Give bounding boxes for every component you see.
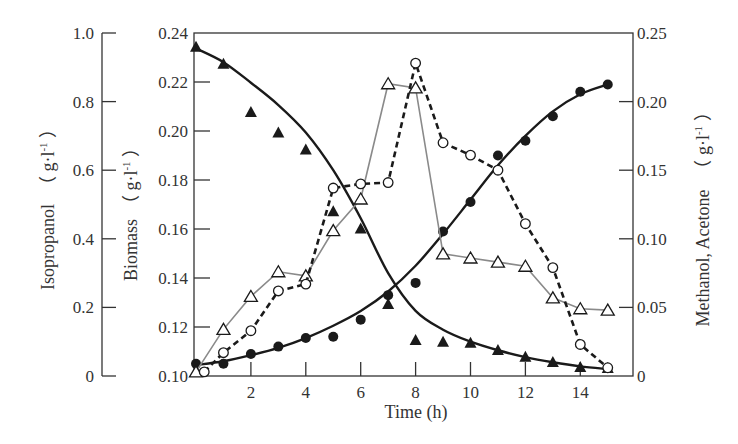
methanol-acetone-axis-title: Methanol, Acetone（ g·l-1 ）: [692, 103, 713, 326]
filled-triangle-marker: [300, 144, 312, 155]
open-triangle-marker: [382, 78, 395, 89]
time-tick-label: 14: [572, 383, 590, 402]
open-circle-marker: [438, 138, 448, 148]
series-acetone: [199, 58, 612, 376]
open-circle-marker: [521, 219, 531, 229]
right-tick-label: 0.10: [637, 230, 667, 249]
isopropanol-tick-label: 0.8: [73, 93, 94, 112]
filled-circle-marker: [328, 332, 338, 342]
acetone-line: [204, 63, 608, 372]
filled-circle-marker: [575, 87, 585, 97]
isopropanol-axis-title: Isopropanol（ g·l-1 ）: [37, 120, 58, 290]
filled-triangle-marker: [410, 334, 422, 345]
open-circle-marker: [246, 326, 256, 336]
chart-canvas: 00.20.40.60.81.0 0.100.120.140.160.180.2…: [0, 0, 738, 444]
filled-triangle-marker: [437, 336, 449, 347]
open-triangle-marker: [437, 248, 450, 259]
filled-circle-marker: [218, 359, 228, 369]
open-circle-marker: [603, 363, 613, 373]
filled-triangle-marker: [272, 126, 284, 137]
open-circle-marker: [199, 367, 209, 377]
open-circle-marker: [493, 165, 503, 175]
filled-triangle-marker: [245, 106, 257, 117]
filled-circle-marker: [301, 333, 311, 343]
open-circle-marker: [411, 58, 421, 68]
open-circle-marker: [356, 179, 366, 189]
time-tick-label: 8: [411, 383, 420, 402]
filled-circle-marker: [383, 290, 393, 300]
open-circle-marker: [274, 286, 284, 296]
filled-circle-marker: [273, 342, 283, 352]
series-layer: [190, 41, 615, 377]
time-axis-title: Time (h): [385, 402, 448, 423]
filled-circle-marker: [466, 197, 476, 207]
right-tick-label: 0.20: [637, 93, 667, 112]
biomass-tick-label: 0.16: [158, 220, 188, 239]
time-axis: 2468101214: [247, 362, 590, 402]
biomass-tick-label: 0.18: [158, 171, 188, 190]
open-triangle-marker: [354, 193, 367, 204]
open-circle-marker: [301, 279, 311, 289]
biomass-tick-label: 0.20: [158, 122, 188, 141]
filled-circle-marker: [246, 349, 256, 359]
filled-triangle-marker: [190, 41, 202, 52]
isopropanol-tick-label: 0.4: [73, 230, 95, 249]
methanol-acetone-axis: 00.050.100.150.200.25: [619, 24, 667, 386]
filled-circle-marker: [603, 79, 613, 89]
biomass-tick-label: 0.12: [158, 318, 188, 337]
filled-triangle-marker: [327, 205, 339, 216]
biomass-tick-label: 0.14: [158, 269, 188, 288]
open-circle-marker: [328, 183, 338, 193]
biomass-tick-label: 0.22: [158, 73, 188, 92]
right-tick-label: 0.15: [637, 161, 667, 180]
open-circle-marker: [219, 348, 229, 358]
right-tick-label: 0: [637, 367, 646, 386]
filled-circle-marker: [520, 136, 530, 146]
series-isopropanol: [190, 41, 614, 373]
isopropanol-tick-label: 0.2: [73, 298, 94, 317]
open-circle-marker: [466, 150, 476, 160]
chart: 00.20.40.60.81.0 0.100.120.140.160.180.2…: [0, 0, 738, 444]
open-circle-marker: [548, 263, 558, 273]
biomass-axis: 0.100.120.140.160.180.200.220.24: [158, 24, 210, 386]
isopropanol-tick-label: 0.6: [73, 161, 94, 180]
time-tick-label: 10: [462, 383, 479, 402]
biomass-axis-title: Biomass（ g·l-1 ）: [120, 139, 141, 281]
time-tick-label: 6: [356, 383, 365, 402]
filled-circle-marker: [548, 111, 558, 121]
filled-circle-marker: [356, 315, 366, 325]
biomass-tick-label: 0.24: [158, 24, 188, 43]
filled-circle-marker: [411, 278, 421, 288]
biomass-tick-label: 0.10: [158, 367, 188, 386]
isopropanol-axis: 00.20.40.60.81.0: [73, 24, 116, 386]
filled-circle-marker: [493, 151, 503, 161]
right-tick-label: 0.25: [637, 24, 667, 43]
time-tick-label: 4: [302, 383, 311, 402]
open-circle-marker: [576, 340, 586, 350]
isopropanol-tick-label: 1.0: [73, 24, 94, 43]
time-tick-label: 12: [517, 383, 534, 402]
open-circle-marker: [383, 178, 393, 188]
time-tick-label: 2: [247, 383, 256, 402]
right-tick-label: 0.05: [637, 298, 667, 317]
open-triangle-marker: [272, 266, 285, 277]
isopropanol-tick-label: 0: [86, 367, 95, 386]
